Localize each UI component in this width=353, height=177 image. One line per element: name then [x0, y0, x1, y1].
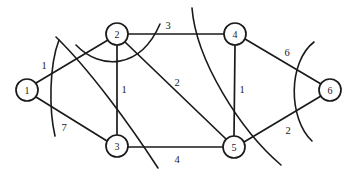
node-1: 1: [16, 79, 38, 101]
node-4: 4: [224, 23, 246, 45]
edge-weight-group: 1 7 3 1 2 4 1 6 2: [41, 20, 290, 165]
node-2: 2: [106, 23, 128, 45]
edge-weight-4-6: 6: [284, 47, 289, 58]
edge-weight-2-5: 2: [174, 77, 179, 88]
edge-weight-2-4: 3: [165, 20, 170, 31]
edge-2-5: [125, 42, 226, 139]
node-1-label: 1: [25, 85, 30, 96]
node-3: 3: [106, 135, 128, 157]
node-2-label: 2: [115, 29, 120, 40]
node-group: 1 2 3 4 5 6: [16, 23, 341, 158]
edge-weight-1-3: 7: [61, 122, 66, 133]
edge-weight-1-2: 1: [41, 60, 46, 71]
edge-4-5: [234, 45, 235, 136]
node-5-label: 5: [232, 142, 237, 153]
edge-weight-4-5: 1: [239, 84, 244, 95]
edge-weight-5-6: 2: [285, 125, 290, 136]
node-3-label: 3: [115, 141, 120, 152]
node-6-label: 6: [328, 85, 333, 96]
edge-weight-2-3: 1: [121, 84, 126, 95]
node-4-label: 4: [233, 29, 238, 40]
cut-arc-right: [294, 42, 314, 141]
edge-group: [36, 34, 321, 147]
node-6: 6: [319, 79, 341, 101]
edge-5-6: [244, 96, 321, 142]
edge-weight-3-5: 4: [174, 154, 180, 165]
graph-canvas: 1 7 3 1 2 4 1 6 2 1 2 3: [0, 0, 353, 177]
cut-arc-left: [51, 40, 59, 136]
graph-figure: 1 7 3 1 2 4 1 6 2 1 2 3: [0, 0, 353, 177]
edge-1-3: [36, 97, 107, 141]
node-5: 5: [223, 136, 245, 158]
cut-arc-group: [51, 8, 314, 168]
edge-1-2: [36, 40, 108, 83]
